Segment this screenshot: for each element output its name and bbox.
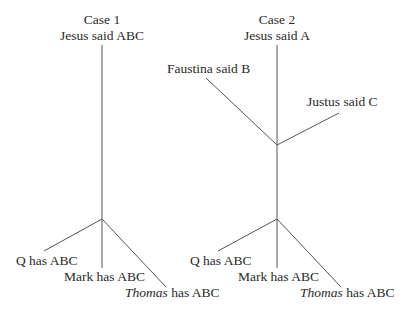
case2-title: Case 2 (259, 12, 295, 28)
case2-thomas-italic: Thomas (300, 285, 343, 300)
case2-faustina-label: Faustina said B (167, 61, 250, 77)
case2-justus-label: Justus said C (307, 94, 378, 110)
case1-q-label: Q has ABC (16, 253, 78, 269)
case1-thomas-label: Thomas has ABC (125, 285, 220, 301)
case2-mark-label: Mark has ABC (238, 269, 319, 285)
case2-branch-faustina (206, 78, 277, 145)
case2-branch-justus (277, 113, 339, 145)
case2-branch-q (218, 219, 277, 251)
case1-thomas-italic: Thomas (125, 285, 168, 300)
case1-title: Case 1 (84, 12, 120, 28)
case2-source: Jesus said A (244, 28, 310, 44)
case2-thomas-rest: has ABC (343, 285, 395, 300)
case1-mark-label: Mark has ABC (64, 269, 145, 285)
case1-source: Jesus said ABC (60, 28, 144, 44)
case1-branch-q (44, 219, 102, 251)
case2-thomas-label: Thomas has ABC (300, 285, 395, 301)
case2-q-label: Q has ABC (190, 253, 252, 269)
case1-thomas-rest: has ABC (168, 285, 220, 300)
